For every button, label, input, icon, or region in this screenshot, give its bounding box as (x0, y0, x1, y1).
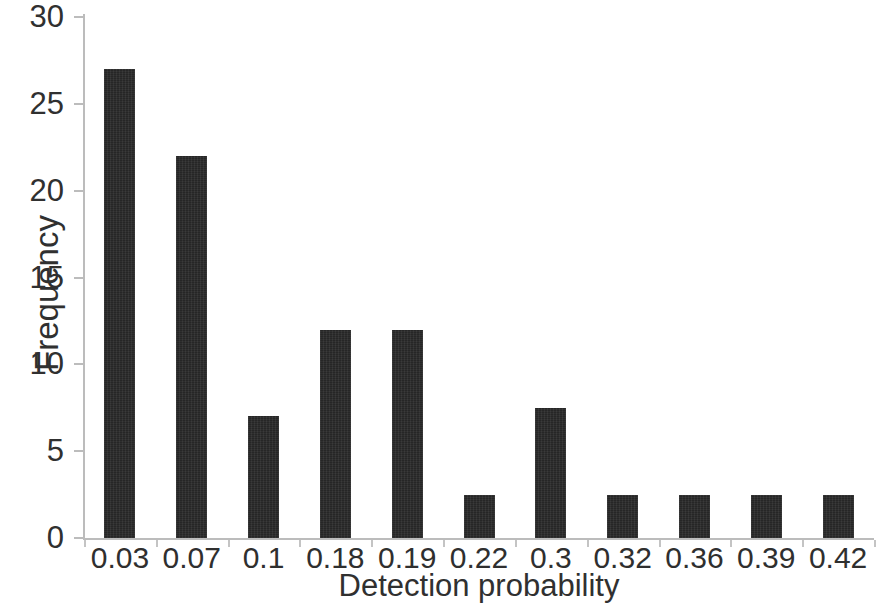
y-axis-tick-label: 10 (4, 348, 64, 379)
y-axis-tick-label: 5 (4, 435, 64, 466)
bar (104, 69, 135, 538)
y-axis-tick-label: 30 (4, 1, 64, 32)
y-axis-tick-mark (74, 537, 83, 539)
y-axis-tick-label: 0 (4, 522, 64, 553)
bar (464, 495, 495, 538)
bar (176, 156, 207, 538)
y-axis-tick-mark (74, 16, 83, 18)
bar (823, 495, 854, 538)
bar-chart-figure: Frequency 051015202530 0.030.070.10.180.… (0, 0, 876, 605)
bar (751, 495, 782, 538)
bar (607, 495, 638, 538)
bar (535, 408, 566, 538)
x-axis-line (83, 538, 874, 540)
y-axis-tick-label: 15 (4, 262, 64, 293)
bar (248, 416, 279, 538)
y-axis-tick-mark (74, 363, 83, 365)
y-axis-tick-label: 20 (4, 175, 64, 206)
y-axis-tick-mark (74, 277, 83, 279)
x-axis-title: Detection probability (84, 568, 874, 604)
y-axis-tick-label: 25 (4, 88, 64, 119)
y-axis-tick-mark (74, 450, 83, 452)
bar (392, 330, 423, 538)
bar (679, 495, 710, 538)
y-axis-line (83, 14, 85, 540)
y-axis-tick-mark (74, 190, 83, 192)
y-axis-tick-mark (74, 103, 83, 105)
bar (320, 330, 351, 538)
